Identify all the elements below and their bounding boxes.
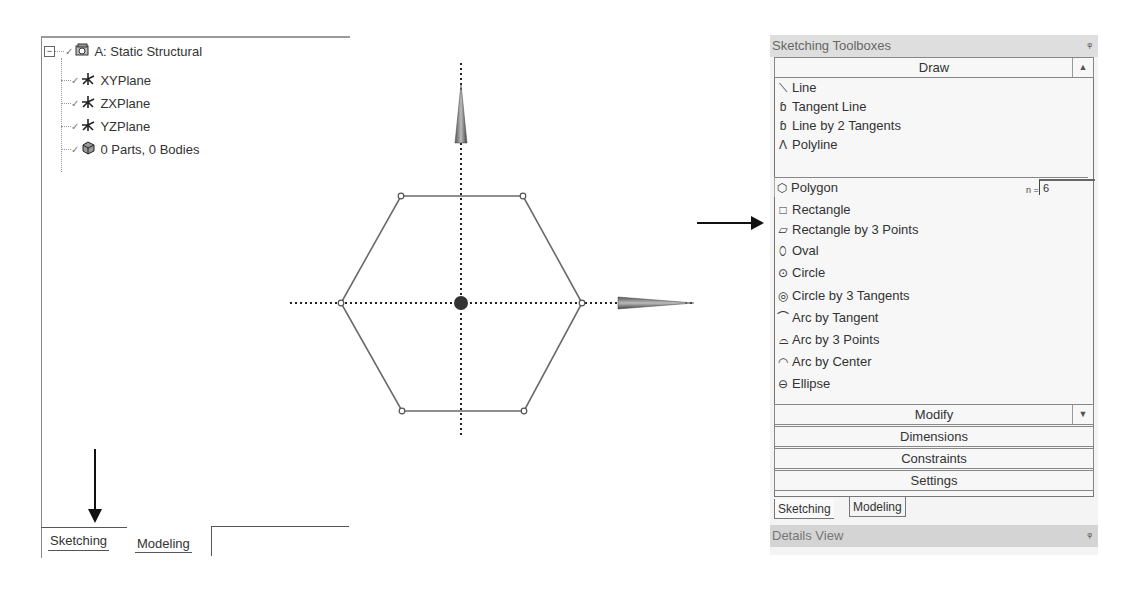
line-icon: ⟍ [776,79,790,97]
tool-label: Tangent Line [792,98,866,116]
tree-connector [61,58,62,172]
tool-polyline[interactable]: Λ Polyline [776,136,838,154]
origin-point [454,296,468,310]
line-by-2-tangents-icon: ɓ [776,117,790,135]
group-draw[interactable]: Draw ▲ [774,57,1094,78]
tool-line[interactable]: ⟍ Line [776,79,817,97]
collapse-up-icon[interactable]: ▲ [1072,58,1093,77]
tab-modeling[interactable]: Modeling [135,536,192,553]
tree-connector [61,149,71,150]
tangent-line-icon: ɓ [776,98,790,116]
tool-ellipse[interactable]: ⊖ Ellipse [776,375,830,393]
tree-connector [61,126,71,127]
pin-icon[interactable]: ᵠ [1087,525,1092,547]
collapse-icon[interactable]: − [44,46,55,57]
tool-arc-by-tangent[interactable]: ⌒ Arc by Tangent [776,309,878,327]
annotation-arrow-right-icon [697,222,753,224]
tree-connector [61,80,71,81]
circle-3-tangents-icon: ◎ [776,287,790,305]
check-icon: ✓ [71,121,79,132]
arc-by-center-icon: ◠ [776,353,790,371]
tree-node-parts-bodies[interactable]: ✓ 0 Parts, 0 Bodies [71,141,199,158]
tree-node-label: ZXPlane [100,96,150,111]
plane-axis-icon [80,118,96,135]
expand-down-icon[interactable]: ▼ [1072,405,1093,424]
group-settings[interactable]: Settings [774,470,1094,491]
tree-node-xyplane[interactable]: ✓ XYPlane [71,72,151,89]
tab-strip-border [41,527,127,528]
check-icon: ✓ [71,98,79,109]
tool-label: Arc by Tangent [792,309,878,327]
polygon-sides-input[interactable] [1039,179,1095,195]
pin-icon[interactable]: ᵠ [1087,35,1092,57]
check-icon: ✓ [71,75,79,86]
details-view-header: Details View ᵠ [770,525,1098,547]
tree-node-zxplane[interactable]: ✓ ZXPlane [71,95,150,112]
tree-connector [61,103,71,104]
tool-label: Circle [792,264,825,282]
tab-strip-border [211,526,212,556]
tool-label: Circle by 3 Tangents [792,287,910,305]
tool-oval[interactable]: ⬯ Oval [776,242,819,260]
check-icon: ✓ [65,46,73,57]
hexagon-sketch[interactable] [341,196,582,411]
tool-arc-by-center[interactable]: ◠ Arc by Center [776,353,871,371]
group-constraints[interactable]: Constraints [774,448,1094,469]
group-modify[interactable]: Modify ▼ [774,404,1094,425]
tool-rectangle[interactable]: □ Rectangle [776,201,851,219]
tool-label: Arc by 3 Points [792,331,879,349]
tool-line-by-2-tangents[interactable]: ɓ Line by 2 Tangents [776,117,901,135]
tool-rectangle-by-3-points[interactable]: ▱ Rectangle by 3 Points [776,221,918,239]
tool-label: Rectangle [792,201,851,219]
tool-label: Ellipse [792,375,830,393]
group-label: Draw [919,60,949,75]
polyline-icon: Λ [776,136,790,154]
rectangle-3-points-icon: ▱ [776,221,790,239]
tree-outline-panel: − ✓ A: Static Structural ✓ XYPlane ✓ ZXP… [41,36,350,558]
arc-by-tangent-icon: ⌒ [776,309,790,327]
tool-circle-by-3-tangents[interactable]: ◎ Circle by 3 Tangents [776,287,910,305]
group-label: Dimensions [900,429,968,444]
sides-label: n = [1026,181,1039,199]
group-label: Settings [911,473,958,488]
tool-label: Polygon [791,179,838,197]
vertex-points [338,193,585,414]
tool-label: Line [792,79,817,97]
tree-node-label: 0 Parts, 0 Bodies [100,142,199,157]
ellipse-icon: ⊖ [776,375,790,393]
tree-node-label: YZPlane [100,119,150,134]
tool-polygon[interactable]: ⬡ Polygon n = [774,177,1088,197]
plane-axis-icon [80,95,96,112]
tree-node-label: A: Static Structural [94,44,202,59]
tool-label: Line by 2 Tangents [792,117,901,135]
tool-label: Rectangle by 3 Points [792,221,918,239]
toolbox-header: Sketching Toolboxes ᵠ [770,35,1098,57]
parts-bodies-icon [80,141,96,158]
tab-sketching[interactable]: Sketching [774,499,834,519]
tab-strip-border [212,526,349,527]
tool-label: Arc by Center [792,353,871,371]
tool-tangent-line[interactable]: ɓ Tangent Line [776,98,866,116]
group-label: Modify [915,407,953,422]
circle-icon: ⊙ [776,264,790,282]
group-label: Constraints [901,451,967,466]
tree-node-label: XYPlane [100,73,151,88]
polygon-icon: ⬡ [775,179,789,197]
group-dimensions[interactable]: Dimensions [774,426,1094,447]
tab-sketching[interactable]: Sketching [48,533,109,551]
tab-modeling[interactable]: Modeling [849,497,906,517]
sketching-toolboxes-panel: Sketching Toolboxes ᵠ Draw ▲ ⟍ Line ɓ Ta… [770,35,1098,555]
tree-node-yzplane[interactable]: ✓ YZPlane [71,118,150,135]
tool-arc-by-3-points[interactable]: ⌓ Arc by 3 Points [776,331,879,349]
tool-label: Polyline [792,136,838,154]
arc-3-points-icon: ⌓ [776,331,790,349]
toolbox-title: Sketching Toolboxes [772,38,891,53]
y-axis-arrow-icon [455,84,467,143]
static-structural-icon [74,43,90,60]
tool-circle[interactable]: ⊙ Circle [776,264,825,282]
oval-icon: ⬯ [776,242,790,260]
tree-node-static-structural[interactable]: − ✓ A: Static Structural [44,43,202,60]
annotation-arrow-down-icon [94,449,96,511]
rectangle-icon: □ [776,201,790,219]
check-icon: ✓ [71,144,79,155]
